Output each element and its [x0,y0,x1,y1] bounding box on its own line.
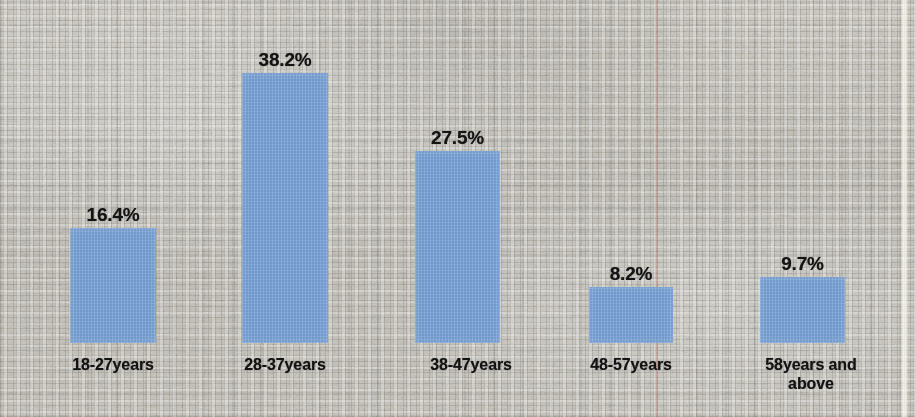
bar-value-label: 27.5% [431,127,484,149]
category-label-58-above: 58years and above [765,355,856,393]
bar-group-18-27: 16.4% [70,228,156,343]
category-label-48-57: 48-57years [590,355,672,374]
bar-group-58-above: 9.7% [760,277,845,343]
bar-rect[interactable] [415,151,500,343]
bar-group-38-47: 27.5% [415,151,500,343]
bar-group-28-37: 38.2% [242,73,328,343]
category-label-18-27: 18-27years [72,355,154,374]
bar-rect[interactable] [242,73,328,343]
category-label-28-37: 28-37years [244,355,326,374]
bar-value-label: 16.4% [87,204,140,226]
category-label-38-47: 38-47years [430,355,512,374]
bar-value-label: 8.2% [610,263,653,285]
plot-area: 16.4% 18-27years 38.2% 28-37years 27.5% … [0,0,915,417]
bar-value-label: 9.7% [781,253,824,275]
bar-rect[interactable] [760,277,845,343]
bar-rect[interactable] [589,287,673,343]
bar-rect[interactable] [70,228,156,343]
bar-value-label: 38.2% [259,49,312,71]
bar-group-48-57: 8.2% [589,287,673,343]
bar-chart-figure: 16.4% 18-27years 38.2% 28-37years 27.5% … [0,0,915,417]
